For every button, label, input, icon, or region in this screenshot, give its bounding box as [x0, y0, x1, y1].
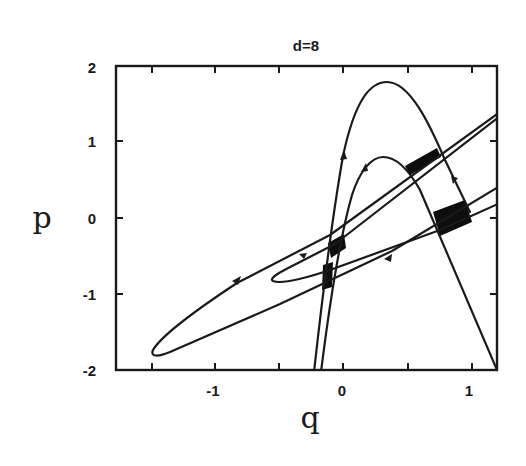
phase-space-plot: d=8 2 1 0 -1 -2 -1 0 1 p q: [0, 0, 526, 466]
y-tick-label: 1: [88, 133, 96, 150]
x-tick-label: 1: [465, 382, 473, 399]
y-tick-label: 0: [88, 210, 96, 227]
y-axis-label: p: [32, 200, 51, 235]
outer-loop-curve: [152, 112, 500, 356]
inner-loop-curve: [272, 116, 500, 282]
x-tick-labels: -1 0 1: [206, 382, 473, 399]
y-tick-label: -1: [83, 286, 96, 303]
shaded-block-upper: [405, 148, 441, 175]
y-tick-labels: 2 1 0 -1 -2: [83, 59, 96, 379]
y-tick-label: 2: [88, 59, 96, 76]
x-tick-label: 0: [338, 382, 346, 399]
arrow-marker: [340, 150, 347, 160]
plot-area: [152, 82, 500, 372]
chart-title: d=8: [293, 37, 319, 54]
y-tick-label: -2: [83, 362, 96, 379]
x-tick-label: -1: [206, 382, 219, 399]
x-axis-label: q: [300, 400, 319, 435]
